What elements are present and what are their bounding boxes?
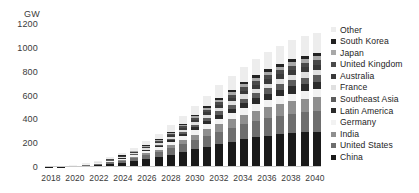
bar-2039[interactable] [301,36,309,167]
bar-2030[interactable] [191,106,199,167]
legend-item-label: France [340,83,367,92]
legend-item[interactable]: France [331,82,419,94]
y-axis-tick-label: 800 [22,67,38,77]
legend-swatch-icon [331,97,336,102]
legend-item[interactable]: China [331,152,419,164]
x-axis-tick-label: 2038 [281,173,300,183]
legend-swatch-icon [331,143,336,148]
bar-segment [301,99,309,113]
bar-segment [191,149,199,167]
legend-item-label: Australia [340,72,374,81]
legend-item[interactable]: Australia [331,70,419,82]
legend-item-label: Southeast Asia [340,95,399,104]
legend-swatch-icon [331,50,336,55]
bar-segment [191,106,199,115]
bar-segment [276,116,284,134]
bar-segment [215,132,223,144]
legend-item[interactable]: Other [331,24,419,36]
bar-2026[interactable] [142,141,150,167]
bar-segment [191,140,199,149]
bar-segment [301,84,309,91]
x-axis-tick-label: 2022 [89,173,108,183]
bar-segment [276,104,284,116]
legend-item-label: United States [340,141,393,150]
bar-segment [313,89,321,97]
bar-segment [252,59,260,75]
x-axis-tick-label: 2034 [233,173,252,183]
bar-segment [264,136,272,167]
bar-segment [288,94,296,102]
bar-segment [215,144,223,167]
x-axis-tick-label: 2030 [185,173,204,183]
bar-segment [301,112,309,132]
legend-item-label: India [340,130,359,139]
legend-swatch-icon [331,155,336,160]
bar-segment [179,116,187,124]
bar-segment [301,91,309,99]
legend-item[interactable]: United States [331,140,419,152]
bar-segment [288,101,296,114]
bar-segment [215,124,223,131]
bar-2040[interactable] [313,33,321,167]
bar-2037[interactable] [276,46,284,167]
bar-segment [252,137,260,167]
y-axis-tick-label: 400 [22,114,38,124]
legend: OtherSouth KoreaJapanUnited KingdomAustr… [331,24,419,163]
y-axis-tick-label: 0 [33,162,38,172]
bar-2031[interactable] [203,96,211,167]
x-axis: 2018202020222024202620282030203220342036… [45,168,321,193]
bar-2032[interactable] [215,85,223,167]
bar-2036[interactable] [264,52,272,167]
bar-segment [288,133,296,167]
x-axis-tick-label: 2032 [209,173,228,183]
bar-2029[interactable] [179,116,187,167]
bar-segment [240,115,248,125]
y-axis: 020040060080010001200 [0,0,45,193]
legend-swatch-icon [331,74,336,79]
bar-2025[interactable] [130,148,138,167]
bar-segment [228,76,236,90]
bar-segment [240,124,248,139]
bar-group [45,24,321,167]
x-axis-baseline [45,166,321,167]
legend-item[interactable]: United Kingdom [331,59,419,71]
bar-segment [313,132,321,168]
legend-item-label: Japan [340,49,364,58]
bar-2028[interactable] [167,125,175,167]
bar-2035[interactable] [252,59,260,167]
plot-area [45,24,321,167]
x-axis-tick-label: 2036 [257,173,276,183]
bar-segment [276,90,284,97]
bar-segment [288,40,296,59]
bar-segment [264,107,272,118]
x-axis-tick-label: 2024 [113,173,132,183]
bar-segment [313,82,321,90]
bar-2024[interactable] [118,153,126,167]
bar-segment [264,118,272,135]
bar-segment [215,85,223,97]
legend-swatch-icon [331,27,336,32]
x-axis-tick-label: 2020 [65,173,84,183]
legend-item[interactable]: Japan [331,47,419,59]
bar-2027[interactable] [155,134,163,167]
legend-item-label: Other [340,26,362,35]
bar-segment [252,104,260,111]
bar-2034[interactable] [240,67,248,167]
bar-2038[interactable] [288,40,296,167]
legend-item[interactable]: Southeast Asia [331,94,419,106]
bar-segment [203,96,211,107]
bar-segment [252,121,260,137]
legend-swatch-icon [331,120,336,125]
bar-segment [276,46,284,64]
bar-segment [240,139,248,167]
bar-2033[interactable] [228,76,236,167]
legend-item[interactable]: Latin America [331,105,419,117]
legend-item[interactable]: India [331,128,419,140]
legend-item[interactable]: South Korea [331,36,419,48]
bar-segment [313,111,321,131]
legend-swatch-icon [331,85,336,90]
legend-item[interactable]: Germany [331,117,419,129]
legend-swatch-icon [331,132,336,137]
bar-segment [203,136,211,147]
bar-segment [301,132,309,167]
